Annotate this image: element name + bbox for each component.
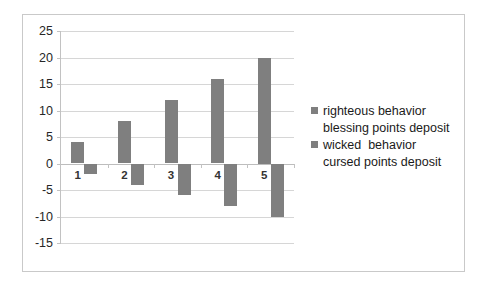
bar-series2-cat3[interactable] xyxy=(178,164,191,196)
y-tick-label: 5 xyxy=(46,131,53,144)
legend-item-wicked[interactable]: wicked behavior xyxy=(311,137,461,154)
chart-legend: righteous behavior blessing points depos… xyxy=(311,103,461,171)
category-tick xyxy=(154,164,155,168)
y-tick-mark-15 xyxy=(57,84,61,85)
gridline--10 xyxy=(61,217,294,218)
plot-area: 2520151050-5-10-15 12345 xyxy=(61,31,294,243)
y-tick-label: -15 xyxy=(35,237,53,250)
chart-frame: 2520151050-5-10-15 12345 righteous behav… xyxy=(22,14,465,272)
category-label: 3 xyxy=(168,170,174,182)
y-tick-label: 15 xyxy=(39,78,53,91)
legend-swatch-icon xyxy=(311,107,318,114)
y-tick-label: 20 xyxy=(39,51,53,64)
legend-sublabel-righteous: blessing points deposit xyxy=(311,120,461,137)
y-tick-mark-5 xyxy=(57,137,61,138)
legend-swatch-icon xyxy=(311,141,318,148)
y-tick-mark-0 xyxy=(57,164,61,165)
bar-series1-cat1[interactable] xyxy=(71,142,84,163)
legend-sublabel-wicked: cursed points deposit xyxy=(311,154,461,171)
gridline-25 xyxy=(61,31,294,32)
y-tick-mark--10 xyxy=(57,217,61,218)
y-tick-mark--15 xyxy=(57,243,61,244)
bar-series1-cat2[interactable] xyxy=(118,121,131,163)
bar-series2-cat5[interactable] xyxy=(271,164,284,217)
y-tick-label: 25 xyxy=(39,25,53,38)
legend-label-righteous: righteous behavior xyxy=(323,103,426,120)
bar-series1-cat3[interactable] xyxy=(165,100,178,164)
y-tick-mark--5 xyxy=(57,190,61,191)
category-tick xyxy=(108,164,109,168)
y-tick-label: -5 xyxy=(42,184,53,197)
y-tick-mark-20 xyxy=(57,58,61,59)
y-tick-mark-10 xyxy=(57,111,61,112)
bar-series1-cat5[interactable] xyxy=(258,58,271,164)
y-tick-label: 10 xyxy=(39,104,53,117)
category-label: 5 xyxy=(261,170,267,182)
category-label: 2 xyxy=(121,170,127,182)
legend-label-wicked: wicked behavior xyxy=(323,137,416,154)
bar-series2-cat4[interactable] xyxy=(224,164,237,206)
y-tick-label: -10 xyxy=(35,210,53,223)
y-tick-label: 0 xyxy=(46,157,53,170)
category-tick xyxy=(201,164,202,168)
bar-series2-cat1[interactable] xyxy=(84,164,97,175)
gridline--15 xyxy=(61,243,294,244)
category-tick xyxy=(294,164,295,168)
legend-item-righteous[interactable]: righteous behavior xyxy=(311,103,461,120)
category-tick xyxy=(247,164,248,168)
category-label: 1 xyxy=(75,170,81,182)
bar-series2-cat2[interactable] xyxy=(131,164,144,185)
y-tick-mark-25 xyxy=(57,31,61,32)
category-label: 4 xyxy=(214,170,220,182)
bar-series1-cat4[interactable] xyxy=(211,79,224,164)
